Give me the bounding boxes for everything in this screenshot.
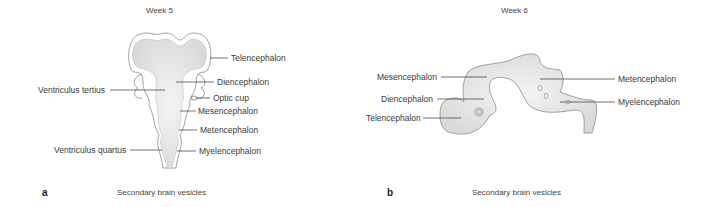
- panel-b-title: Week 6: [501, 6, 528, 15]
- panel-a-letter: a: [42, 187, 48, 198]
- panel-a-title: Week 5: [146, 6, 173, 15]
- week6-brain-figure: [440, 54, 597, 134]
- label-ventriculus-tertius: Ventriculus tertius: [38, 85, 105, 95]
- diagram-canvas: [0, 0, 713, 207]
- label-ventriculus-quartus: Ventriculus quartus: [54, 145, 126, 155]
- label-telencephalon-a: Telencephalon: [231, 53, 286, 63]
- label-myelencephalon-b: Myelencephalon: [618, 97, 680, 107]
- label-diencephalon-a: Diencephalon: [217, 77, 269, 87]
- panel-a-caption: Secondary brain vesicles: [117, 188, 206, 197]
- panel-b-letter: b: [387, 187, 393, 198]
- label-metencephalon-b: Metencephalon: [618, 74, 676, 84]
- label-myelencephalon-a: Myelencephalon: [199, 146, 261, 156]
- label-optic-cup: Optic cup: [213, 93, 249, 103]
- label-diencephalon-b: Diencephalon: [381, 94, 433, 104]
- panel-b-caption: Secondary brain vesicles: [472, 188, 561, 197]
- label-telencephalon-b: Telencephalon: [366, 113, 421, 123]
- label-metencephalon-a: Metencephalon: [200, 125, 258, 135]
- label-mesencephalon-a: Mesencephalon: [198, 106, 258, 116]
- label-mesencephalon-b: Mesencephalon: [377, 72, 437, 82]
